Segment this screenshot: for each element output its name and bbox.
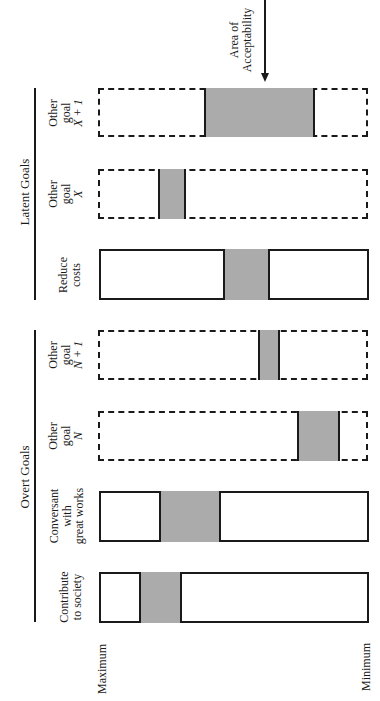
goal-label-line: Other [47, 330, 60, 380]
goal-label-line: N + 1 [72, 330, 85, 380]
goal-label-line: Other [47, 169, 60, 219]
goal-label-line: X + 1 [72, 88, 85, 138]
latent-goals-bracket [34, 88, 36, 300]
goal-label-other-n-plus-1: Other goal N + 1 [47, 330, 83, 380]
goal-bar-other-x-plus-1 [98, 88, 368, 137]
goal-label-line: Conversant [48, 482, 61, 550]
goal-label-line: Reduce [57, 250, 70, 300]
goal-label-other-n: Other goal N [47, 411, 83, 461]
annotation-line-1: Area of [228, 5, 241, 75]
group-label-overt-goals: Overt Goals [18, 437, 34, 517]
goal-label-contribute-to-society: Contribute to society [58, 566, 84, 628]
goal-label-line: to society [71, 566, 84, 628]
goal-label-line: N [72, 411, 85, 461]
group-label-latent-goals: Latent Goals [18, 152, 34, 232]
acceptable-range [258, 330, 280, 380]
goal-label-line: X [72, 169, 85, 219]
goal-bar-reduce-costs [99, 249, 369, 300]
axis-label-minimum: Minimum [360, 639, 374, 695]
goal-bar-other-n [98, 411, 368, 461]
acceptable-range [139, 572, 182, 623]
area-of-acceptability-label: Area of Acceptability [228, 5, 258, 75]
acceptable-range [223, 249, 270, 300]
overt-goals-bracket [34, 330, 36, 622]
goal-bar-contribute-to-society [99, 572, 369, 623]
acceptability-arrow-shaft [264, 0, 266, 74]
acceptable-range [297, 411, 340, 461]
acceptable-range [158, 169, 186, 219]
goal-label-line: great works [73, 482, 86, 550]
goal-bar-other-x [98, 169, 368, 219]
goal-label-line: costs [70, 250, 83, 300]
acceptable-range [159, 491, 221, 542]
goal-label-reduce-costs: Reduce costs [57, 250, 83, 300]
axis-label-maximum: Maximum [96, 641, 110, 697]
goal-label-other-x-plus-1: Other goal X + 1 [47, 88, 83, 138]
annotation-line-2: Acceptability [241, 5, 254, 75]
goal-label-line: Other [47, 411, 60, 461]
acceptability-arrow-head-icon [261, 73, 269, 82]
acceptable-range [204, 88, 315, 137]
goal-label-conversant-with-great-works: Conversant with great works [48, 482, 84, 550]
goal-label-other-x: Other goal X [47, 169, 83, 219]
goal-label-line: Other [47, 88, 60, 138]
goal-label-line: Contribute [58, 566, 71, 628]
goal-bar-conversant-with-great-works [99, 491, 369, 542]
goal-bar-other-n-plus-1 [98, 330, 368, 380]
